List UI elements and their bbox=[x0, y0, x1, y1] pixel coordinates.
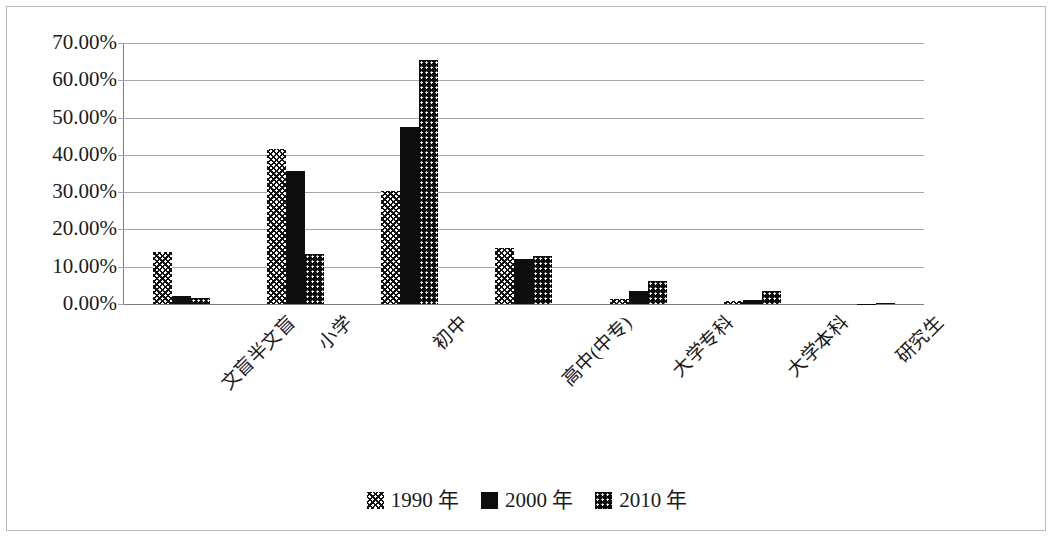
x-axis-label-1: 文盲半文盲 bbox=[217, 312, 299, 394]
x-axis-label-3: 初中 bbox=[429, 312, 471, 354]
bar-group bbox=[124, 43, 238, 304]
bar-group bbox=[695, 43, 809, 304]
bar-1990年-大学本科 bbox=[724, 301, 743, 304]
y-axis-tick-label: 10.00% bbox=[52, 256, 117, 277]
y-axis-tick-label: 30.00% bbox=[52, 181, 117, 202]
bar-1990年-小学 bbox=[267, 149, 286, 304]
bar-group bbox=[238, 43, 352, 304]
legend-item-2[interactable]: 2000 年 bbox=[481, 486, 573, 512]
bar-group bbox=[467, 43, 581, 304]
chart-figure: 70.00%60.00%50.00%40.00%30.00%20.00%10.0… bbox=[6, 6, 1046, 531]
solid-swatch bbox=[481, 492, 498, 509]
x-axis-label-6: 大学本科 bbox=[783, 312, 852, 381]
bar-2010年-小学 bbox=[305, 254, 324, 304]
legend-label: 2000 年 bbox=[505, 488, 573, 512]
legend-item-1[interactable]: 1990 年 bbox=[367, 486, 459, 512]
y-axis-tick-label: 50.00% bbox=[52, 107, 117, 128]
legend-label: 2010 年 bbox=[619, 488, 687, 512]
bar-2010年-大学本科 bbox=[762, 291, 781, 304]
y-axis-tick-label: 0.00% bbox=[63, 293, 117, 314]
chart-legend: 1990 年2000 年2010 年 bbox=[7, 485, 1047, 512]
bar-2000年-高中(中专) bbox=[514, 259, 533, 304]
gridline bbox=[124, 304, 924, 305]
legend-label: 1990 年 bbox=[391, 488, 459, 512]
legend-item-3[interactable]: 2010 年 bbox=[595, 486, 687, 512]
bar-2010年-研究生 bbox=[876, 303, 895, 304]
bar-group bbox=[353, 43, 467, 304]
bar-2000年-初中 bbox=[400, 127, 419, 304]
y-axis-tick-label: 70.00% bbox=[52, 32, 117, 53]
bar-1990年-高中(中专) bbox=[495, 248, 514, 304]
x-axis-label-4: 高中(中专) bbox=[558, 312, 636, 390]
bar-2010年-文盲半文盲 bbox=[191, 298, 210, 304]
y-axis-tick-label: 60.00% bbox=[52, 69, 117, 90]
bar-1990年-文盲半文盲 bbox=[153, 252, 172, 304]
bar-2000年-小学 bbox=[286, 171, 305, 304]
dotted-swatch bbox=[595, 492, 612, 509]
bar-2000年-大学专科 bbox=[629, 291, 648, 304]
y-axis-tick bbox=[118, 304, 124, 305]
y-axis-labels: 70.00%60.00%50.00%40.00%30.00%20.00%10.0… bbox=[7, 7, 117, 532]
cross-hatch-swatch bbox=[367, 492, 384, 509]
bar-group bbox=[810, 43, 924, 304]
bar-1990年-初中 bbox=[381, 191, 400, 304]
y-axis-tick-label: 20.00% bbox=[52, 218, 117, 239]
x-axis-label-5: 大学专科 bbox=[669, 312, 738, 381]
bar-2000年-大学本科 bbox=[743, 300, 762, 304]
x-axis-label-2: 小学 bbox=[315, 312, 357, 354]
bar-2000年-文盲半文盲 bbox=[172, 296, 191, 304]
bar-2010年-初中 bbox=[419, 60, 438, 304]
bar-group bbox=[581, 43, 695, 304]
bar-2010年-高中(中专) bbox=[533, 256, 552, 304]
bar-1990年-大学专科 bbox=[610, 299, 629, 304]
y-axis-tick-label: 40.00% bbox=[52, 144, 117, 165]
plot-area bbox=[124, 43, 924, 304]
x-axis-label-7: 研究生 bbox=[892, 312, 947, 367]
bar-2010年-大学专科 bbox=[648, 281, 667, 304]
